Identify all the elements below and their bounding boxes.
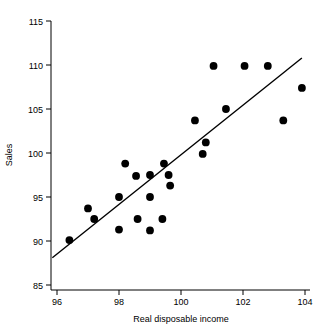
data-point [199, 150, 207, 158]
data-point [279, 117, 287, 125]
data-points [66, 62, 306, 244]
scatter-plot-figure: 9698100102104 859095100105110115 Real di… [0, 0, 322, 328]
y-tick-label: 85 [33, 281, 43, 291]
x-tick-label: 102 [235, 297, 250, 307]
data-point [84, 205, 92, 213]
y-tick-label: 90 [33, 237, 43, 247]
x-tick-label: 98 [114, 297, 124, 307]
data-point [146, 193, 154, 201]
y-tick-label: 100 [28, 149, 43, 159]
data-point [134, 215, 142, 223]
y-axis-label: Sales [4, 143, 14, 166]
y-tick-label: 110 [29, 61, 43, 71]
plot-canvas: 9698100102104 859095100105110115 Real di… [0, 0, 322, 328]
y-tick-label: 95 [33, 193, 43, 203]
x-axis-ticks [57, 290, 305, 295]
y-axis-tick-labels: 859095100105110115 [28, 17, 43, 291]
data-point [165, 171, 173, 179]
data-point [241, 62, 249, 70]
data-point [146, 227, 154, 235]
data-point [146, 171, 154, 179]
data-point [202, 139, 210, 147]
regression-line [52, 58, 302, 258]
y-tick-label: 105 [28, 105, 43, 115]
data-point [166, 182, 174, 190]
x-tick-label: 104 [297, 297, 312, 307]
y-axis-ticks [46, 21, 51, 285]
x-axis-label: Real disposable income [133, 314, 229, 324]
data-point [298, 84, 306, 92]
data-point [66, 236, 74, 244]
data-point [191, 117, 199, 125]
data-point [90, 215, 98, 223]
x-axis-tick-labels: 9698100102104 [52, 297, 313, 307]
data-point [160, 160, 168, 168]
data-point [132, 172, 140, 180]
data-point [115, 226, 123, 234]
fit-line [52, 58, 302, 258]
data-point [115, 193, 123, 201]
x-tick-label: 96 [52, 297, 62, 307]
x-tick-label: 100 [173, 297, 188, 307]
data-point [264, 62, 272, 70]
data-point [222, 105, 230, 113]
y-tick-label: 115 [29, 17, 43, 27]
data-point [210, 62, 218, 70]
data-point [159, 215, 167, 223]
data-point [121, 160, 129, 168]
